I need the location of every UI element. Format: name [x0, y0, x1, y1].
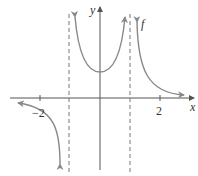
- function-graph: y x f −2 2: [0, 0, 198, 176]
- curve-right-branch: [137, 22, 184, 95]
- y-axis-label: y: [89, 3, 96, 17]
- tick-label-neg2: −2: [32, 106, 45, 120]
- function-label: f: [141, 17, 146, 31]
- x-axis-label: x: [189, 100, 196, 114]
- tick-label-2: 2: [156, 104, 162, 118]
